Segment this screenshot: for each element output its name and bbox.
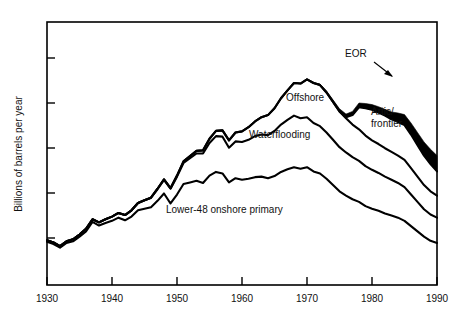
series-label-eor: EOR [345, 48, 367, 59]
x-tick-label-1950: 1950 [166, 293, 189, 304]
series-layer [47, 79, 437, 247]
x-tick-label-1980: 1980 [361, 293, 384, 304]
x-tick-label-1940: 1940 [101, 293, 124, 304]
y-axis-title: Billions of barrels per year [13, 96, 24, 212]
series-curve-offshore [47, 79, 437, 246]
series-label-arctic-line1: Artic/ [371, 106, 394, 117]
chart-figure: 1930194019501960197019801990 Billions of… [0, 0, 463, 323]
oil-production-chart: 1930194019501960197019801990 Billions of… [0, 0, 463, 323]
x-tick-label-1930: 1930 [36, 293, 59, 304]
series-label-waterflooding: Waterflooding [249, 129, 310, 140]
series-label-offshore: Offshore [286, 92, 325, 103]
x-tick-label-1970: 1970 [296, 293, 319, 304]
x-axis-tick-labels: 1930194019501960197019801990 [36, 293, 449, 304]
series-band-eor [47, 79, 437, 246]
series-curve-waterflooding [47, 116, 437, 246]
series-curve-artic-frontier [47, 79, 437, 246]
plot-frame [47, 22, 437, 285]
x-tick-label-1990: 1990 [426, 293, 449, 304]
x-axis-ticks [47, 277, 437, 285]
series-label-arctic-line2: frontier [371, 118, 403, 129]
x-tick-label-1960: 1960 [231, 293, 254, 304]
eor-leader-annotation [374, 62, 393, 77]
series-label-lower48: Lower-48 onshore primary [166, 204, 283, 215]
y-axis-ticks [47, 58, 55, 238]
